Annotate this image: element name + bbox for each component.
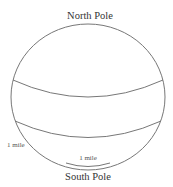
north-pole-label: North Pole xyxy=(67,11,113,22)
lower-latitude-line xyxy=(15,121,161,138)
south-pole-label: South Pole xyxy=(65,172,111,183)
upper-latitude-line xyxy=(13,80,163,97)
globe-diagram: North Pole 1 mile 1 mile South Pole xyxy=(0,0,173,187)
south-cap-line xyxy=(66,163,110,167)
bottom-mile-label: 1 mile xyxy=(79,155,97,162)
left-mile-label: 1 mile xyxy=(7,142,25,149)
